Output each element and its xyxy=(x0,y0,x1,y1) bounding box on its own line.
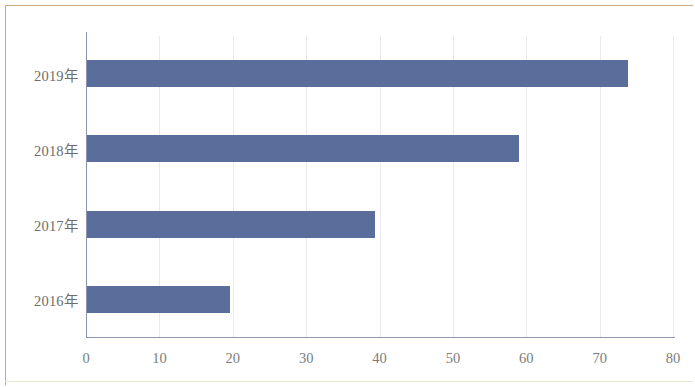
x-axis-tick-label: 20 xyxy=(213,350,253,367)
chart-screenshot: 2019年2018年2017年2016年 01020304050607080 xyxy=(0,0,695,387)
bar xyxy=(86,211,375,238)
y-axis-category-label: 2019年 xyxy=(34,64,78,85)
plot-area xyxy=(86,36,673,337)
y-axis-category-label: 2016年 xyxy=(34,289,78,310)
y-axis-line xyxy=(86,32,87,338)
y-axis-category-label: 2018年 xyxy=(34,139,78,160)
y-axis-category-label: 2017年 xyxy=(34,214,78,235)
gridline xyxy=(673,36,674,337)
x-axis-tick-label: 80 xyxy=(653,350,693,367)
bar xyxy=(86,135,519,162)
x-axis-tick-label: 0 xyxy=(66,350,106,367)
x-axis-tick-label: 30 xyxy=(286,350,326,367)
y-axis-category-labels: 2019年2018年2017年2016年 xyxy=(0,0,78,387)
x-axis-tick-label: 40 xyxy=(360,350,400,367)
bar xyxy=(86,60,628,87)
x-axis-tick-label: 50 xyxy=(433,350,473,367)
horizontal-bar-chart: 2019年2018年2017年2016年 01020304050607080 xyxy=(0,0,695,387)
x-axis-tick-label: 70 xyxy=(580,350,620,367)
bar xyxy=(86,286,230,313)
x-axis-tick-label: 60 xyxy=(506,350,546,367)
x-axis-tick-label: 10 xyxy=(139,350,179,367)
x-axis-line xyxy=(86,337,675,338)
